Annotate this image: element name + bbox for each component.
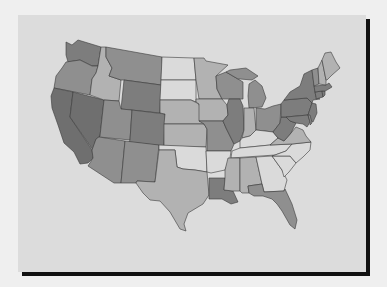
state-SD (160, 80, 196, 102)
state-NE (160, 100, 204, 124)
state-NM (121, 141, 159, 183)
state-CT (315, 91, 323, 99)
state-PA (281, 98, 312, 117)
state-WY (121, 80, 161, 113)
state-CO (129, 110, 165, 146)
us-choropleth-map (0, 0, 387, 287)
state-ND (161, 57, 196, 80)
state-KS (164, 124, 207, 147)
state-IA (196, 99, 228, 121)
